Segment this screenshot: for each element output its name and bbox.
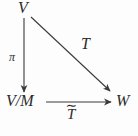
arrow-label-t-tilde: ∼ T <box>67 107 75 122</box>
arrow-label-t: T <box>81 36 90 52</box>
node-label-v: V <box>18 0 28 16</box>
arrow-label-pi: π <box>9 51 15 63</box>
commutative-diagram: V V/M W π T ∼ T <box>0 0 138 136</box>
tilde-accent-icon: ∼ <box>65 99 77 113</box>
node-label-w: W <box>116 93 129 109</box>
t-tilde-stack: ∼ T <box>67 107 75 122</box>
node-label-v-mod-m: V/M <box>6 93 34 109</box>
T-arrow-line <box>31 17 110 91</box>
